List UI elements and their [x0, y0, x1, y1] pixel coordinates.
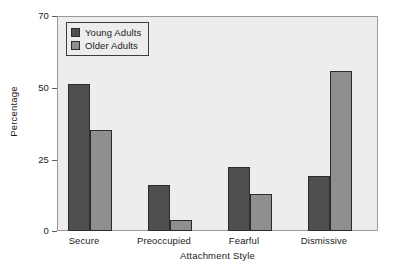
bar-young-adults-fearful — [228, 167, 250, 232]
x-axis: Secure Preoccupied Fearful Dismissive — [57, 232, 378, 252]
bar-older-adults-secure — [90, 130, 112, 231]
bar-young-adults-preoccupied — [148, 185, 170, 231]
x-axis-title: Attachment Style — [57, 250, 378, 261]
bar-older-adults-preoccupied — [170, 220, 192, 231]
legend-item-young-adults: Young Adults — [71, 26, 141, 39]
bar-young-adults-dismissive — [308, 176, 330, 231]
x-tick-label-dismissive: Dismissive — [274, 235, 374, 246]
legend: Young Adults Older Adults — [66, 22, 149, 56]
bar-young-adults-secure — [68, 84, 90, 231]
bar-older-adults-dismissive — [330, 71, 352, 231]
bar-chart: 70 50 25 0 Percentage — [0, 0, 398, 273]
legend-swatch-icon — [71, 28, 80, 37]
legend-swatch-icon — [71, 41, 80, 50]
legend-item-older-adults: Older Adults — [71, 39, 141, 52]
legend-label: Older Adults — [85, 39, 138, 52]
legend-label: Young Adults — [85, 26, 141, 39]
bar-older-adults-fearful — [250, 194, 272, 231]
